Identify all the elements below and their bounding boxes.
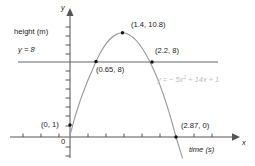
point-x-intercept — [174, 135, 177, 138]
y-axis-caption: height (m) — [14, 28, 48, 36]
point-vertex — [121, 31, 124, 34]
x-axis-name: x — [242, 139, 246, 146]
point-label-y-intercept: (0, 1) — [41, 121, 59, 129]
y-axis-caption-word: height (m) — [14, 27, 48, 36]
point-label-vertex: (1.4, 10.8) — [131, 21, 166, 29]
origin-label: 0 — [61, 138, 65, 146]
x-axis — [10, 133, 240, 141]
curve-equation-suffix: + 14x + 1 — [186, 75, 219, 84]
curve-equation-prefix: y = − 5x — [157, 75, 183, 84]
horizontal-line-label: y = 8 — [18, 46, 35, 54]
point-label-x-intercept: (2.87, 0) — [181, 122, 209, 130]
point-intersection-left — [94, 60, 97, 63]
y-axis-name: y — [61, 4, 65, 11]
point-y-intercept — [68, 123, 71, 126]
graph-figure: y x height (m) time (s) y = 8 0 (1.4, 10… — [0, 0, 255, 166]
curve-equation-label: y = − 5x2 + 14x + 1 — [157, 76, 219, 83]
x-axis-caption: time (s) — [189, 146, 214, 154]
point-label-intersection-right: (2.2, 8) — [155, 47, 179, 55]
point-label-intersection-left: (0.65, 8) — [96, 66, 124, 74]
point-intersection-right — [150, 60, 153, 63]
